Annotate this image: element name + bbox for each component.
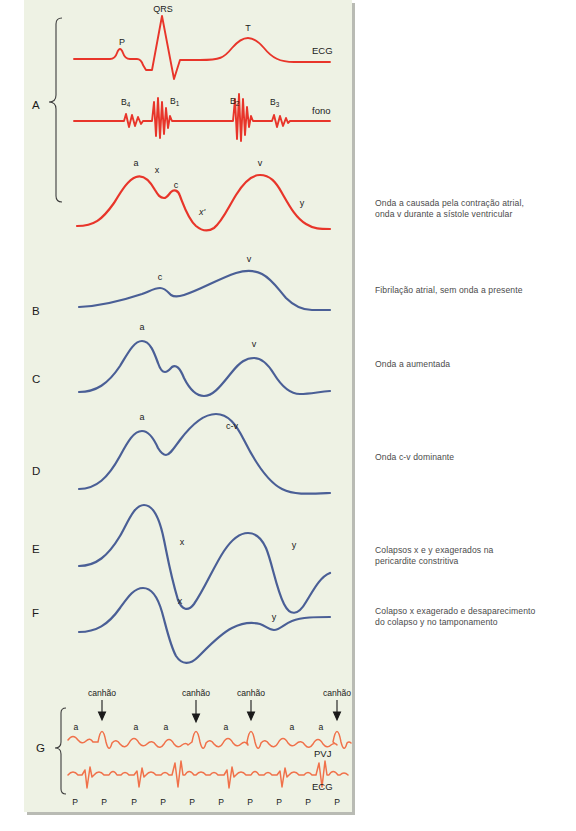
caption-panel-a-line1: Onda a causada pela contração atrial, [375,198,575,209]
caption-panel-d: Onda c-v dominante [375,452,575,463]
panel-a-phono-b1-label: B1 [170,96,180,107]
caption-panel-f-line2: do colapso y no tamponamento [375,617,575,628]
panel-a-jvp-xprime-label: x' [198,207,206,217]
panel-a-jvp-a-label: a [133,158,138,168]
panel-e-jvp-y-label: y [292,540,297,550]
panel-g-a-label-6: a [319,722,324,732]
panel-a-ecg-qrs-label: QRS [153,4,173,14]
panel-g-cannon-label-4: canhão [323,688,351,698]
panel-g-p-label-1: P [72,797,78,807]
panel-g-cannon-arrow-4 [334,700,341,720]
panel-c-jvp-a-label: a [139,322,144,332]
panel-d-letter: D [32,465,40,477]
panel-g-pvj-trace [68,732,351,749]
panel-f-jvp-trace [79,588,330,663]
panel-a-phono-b3-label: B3 [270,97,280,108]
panel-a-jvp-x-label: x [155,165,160,175]
panel-a-jvp-v-label: v [258,158,263,168]
panel-g-p-label-6: P [218,797,224,807]
panel-a-ecg-t-label: T [245,23,251,33]
panel-g-p-label-5: P [189,797,195,807]
panel-b-jvp-c-label: c [158,272,163,282]
panel-a-ecg-trace-label: ECG [312,45,333,56]
panel-a-phono-trace-label: fono [312,105,331,116]
captions-column: Onda a causada pela contração atrial, on… [375,0,575,831]
caption-panel-b: Fibrilação atrial, sem onda a presente [375,285,575,296]
panel-g-p-label-4: P [160,797,166,807]
panel-a-jvp-c-label: c [174,180,179,190]
panel-g-a-label-2: a [134,722,139,732]
panel-e-jvp-x-label: x [180,537,185,547]
panel-c-jvp-v-label: v [252,339,257,349]
figure-panel: A P QRS T ECG B4 B1 B2 B3 fono a x c x' … [24,0,352,812]
panel-g-ecg-trace [68,761,348,788]
panel-g-cannon-label-1: canhão [88,688,116,698]
panel-a-jvp-trace [77,175,330,230]
caption-panel-d-line1: Onda c-v dominante [375,452,575,463]
panel-g-p-label-8: P [276,797,282,807]
panel-g-a-label-3: a [164,722,169,732]
panel-a-jvp-y-label: y [300,198,305,208]
panel-g-cannon-arrow-3 [248,700,255,720]
panel-g-a-label-4: a [224,722,229,732]
panel-a-letter: A [32,99,40,111]
panel-g-cannon-arrow-1 [99,700,106,720]
panel-g-p-label-3: P [131,797,137,807]
caption-panel-f: Colapso x exagerado e desaparecimento do… [375,606,575,628]
panel-a-phono-trace [74,94,330,141]
panel-e-jvp-trace [79,505,330,613]
panel-g-pvj-trace-label: PVJ [314,748,332,759]
caption-panel-b-line1: Fibrilação atrial, sem onda a presente [375,285,575,296]
jugular-venous-pulse-diagram: A P QRS T ECG B4 B1 B2 B3 fono a x c x' … [24,0,352,812]
panel-g-cannon-label-2: canhão [182,688,210,698]
panel-g-bracket [55,708,66,794]
caption-panel-a-line2: onda v durante a sístole ventricular [375,209,575,220]
panel-g-p-label-7: P [247,797,253,807]
panel-d-jvp-a-label: a [139,412,144,422]
panel-b-jvp-trace [79,271,330,310]
panel-g-cannon-arrow-2 [193,700,200,722]
panel-g-p-label-9: P [305,797,311,807]
panel-d-jvp-trace [79,414,330,494]
caption-panel-e-line1: Colapsos x e y exagerados na [375,545,575,556]
panel-e-letter: E [32,543,40,555]
panel-g-ecg-trace-label: ECG [312,781,333,792]
panel-a-bracket [49,18,62,202]
panel-a-ecg-p-label: P [119,37,125,47]
panel-f-jvp-y-label: y [272,612,277,622]
panel-b-jvp-v-label: v [247,254,252,264]
panel-c-jvp-trace [79,341,330,396]
panel-c-letter: C [32,373,40,385]
panel-g-p-label-2: P [101,797,107,807]
panel-f-jvp-x-label: x [178,596,183,606]
panel-a-ecg-trace [74,16,330,79]
panel-g-letter: G [36,742,45,754]
caption-panel-c-line1: Onda a aumentada [375,359,575,370]
panel-g-p-label-10: P [334,797,340,807]
panel-g-a-label-5: a [290,722,295,732]
caption-panel-f-line1: Colapso x exagerado e desaparecimento [375,606,575,617]
caption-panel-e-line2: pericardite constritiva [375,556,575,567]
panel-g-cannon-label-3: canhão [237,688,265,698]
caption-panel-e: Colapsos x e y exagerados na pericardite… [375,545,575,567]
panel-g-a-label-1: a [74,722,79,732]
caption-panel-c: Onda a aumentada [375,359,575,370]
panel-b-letter: B [32,305,40,317]
panel-d-jvp-cv-label: c-v [226,421,238,431]
panel-f-letter: F [32,607,39,619]
caption-panel-a: Onda a causada pela contração atrial, on… [375,198,575,220]
panel-a-phono-b4-label: B4 [121,97,131,108]
